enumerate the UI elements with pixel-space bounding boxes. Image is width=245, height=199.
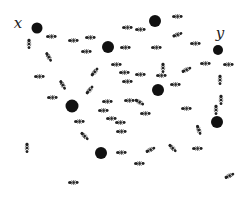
ant-icon: [200, 61, 212, 66]
node-n5: [66, 100, 79, 113]
ant-icon: [140, 111, 152, 116]
ant-icon: [68, 38, 80, 43]
ant-icon: [122, 25, 134, 30]
ant-icon: [134, 97, 147, 107]
ant-icon: [84, 83, 96, 95]
ant-icon: [161, 62, 166, 74]
ant-icon: [181, 106, 193, 111]
ant-icon: [89, 65, 101, 77]
ant-icon: [170, 82, 182, 87]
ant-icon: [46, 34, 58, 39]
ant-colony-diagram: xy: [0, 0, 245, 199]
ant-icon: [218, 74, 223, 86]
ant-icon: [192, 146, 204, 151]
ant-icon: [172, 30, 185, 39]
label-y: y: [216, 26, 224, 41]
ant-icon: [134, 161, 146, 166]
node-y-node: [213, 45, 223, 55]
ant-icon: [98, 108, 110, 113]
ant-icon: [122, 79, 134, 84]
node-x-node: [32, 23, 43, 34]
ant-icon: [135, 27, 147, 32]
ant-icon: [102, 99, 114, 104]
ant-icon: [116, 129, 128, 134]
ant-icon: [34, 74, 46, 79]
ant-icon: [119, 70, 131, 75]
ant-icon: [190, 41, 202, 46]
ant-icon: [27, 38, 32, 50]
ant-icon: [224, 170, 237, 180]
ant-icon: [135, 72, 147, 77]
ant-icon: [219, 94, 224, 106]
node-n6: [152, 84, 164, 96]
ant-icon: [111, 62, 123, 67]
ant-icon: [145, 144, 158, 154]
node-n7: [211, 116, 223, 128]
node-n2: [102, 41, 114, 53]
ant-icon: [167, 142, 179, 154]
ant-icon: [47, 95, 59, 100]
ant-icon: [85, 35, 97, 40]
ant-icon: [44, 51, 54, 64]
ant-icon: [68, 180, 80, 185]
ant-icon: [172, 14, 184, 19]
ant-icon: [195, 124, 204, 137]
ant-icon: [120, 45, 132, 50]
ant-icon: [115, 120, 127, 125]
ant-icon: [25, 142, 30, 154]
ant-icon: [79, 130, 91, 142]
ant-icon: [74, 119, 86, 124]
ant-icon: [81, 49, 93, 54]
label-x: x: [14, 16, 22, 31]
ant-icon: [151, 45, 163, 50]
node-n3: [149, 15, 161, 27]
ant-icon: [58, 79, 68, 92]
ant-icon: [116, 150, 128, 155]
ant-icon: [214, 104, 219, 116]
ant-icon: [181, 64, 194, 74]
ant-icon: [223, 62, 235, 67]
node-n8: [95, 147, 107, 159]
